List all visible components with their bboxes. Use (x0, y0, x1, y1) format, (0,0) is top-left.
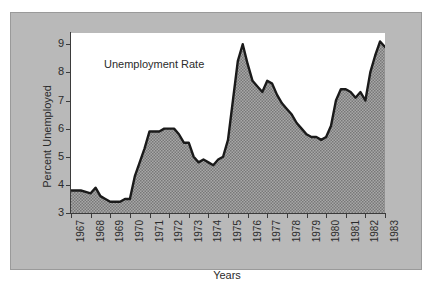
y-tick-label: 3 (48, 207, 64, 217)
x-tick-mark (307, 214, 308, 218)
y-tick-mark (66, 185, 71, 186)
series-annotation-label: Unemployment Rate (104, 58, 204, 70)
x-tick-label: 1979 (311, 220, 322, 242)
x-tick-mark (130, 214, 131, 218)
x-tick-label: 1973 (193, 220, 204, 242)
y-tick-label: 6 (48, 123, 64, 133)
x-tick-mark (365, 214, 366, 218)
figure-container: Percent Unemployed Years 3456789 1967196… (0, 0, 432, 283)
x-tick-label: 1978 (291, 220, 302, 242)
x-tick-mark (228, 214, 229, 218)
x-tick-mark (189, 214, 190, 218)
y-axis-line (70, 32, 71, 214)
x-tick-mark (248, 214, 249, 218)
x-tick-label: 1975 (232, 220, 243, 242)
x-tick-label: 1981 (350, 220, 361, 242)
x-tick-label: 1976 (252, 220, 263, 242)
x-tick-label: 1968 (95, 220, 106, 242)
x-tick-mark (287, 214, 288, 218)
y-tick-mark (66, 101, 71, 102)
x-tick-mark (346, 214, 347, 218)
x-axis-title: Years (11, 269, 432, 281)
x-tick-label: 1982 (369, 220, 380, 242)
x-tick-mark (71, 214, 72, 218)
x-tick-label: 1967 (75, 220, 86, 242)
x-tick-mark (110, 214, 111, 218)
y-tick-label: 8 (48, 66, 64, 76)
x-tick-mark (385, 214, 386, 218)
x-tick-label: 1972 (173, 220, 184, 242)
x-tick-label: 1969 (114, 220, 125, 242)
y-tick-mark (66, 157, 71, 158)
x-tick-label: 1977 (271, 220, 282, 242)
x-tick-mark (326, 214, 327, 218)
x-tick-mark (208, 214, 209, 218)
y-tick-mark (66, 44, 71, 45)
x-tick-mark (267, 214, 268, 218)
x-tick-mark (169, 214, 170, 218)
y-tick-label: 5 (48, 151, 64, 161)
x-tick-label: 1980 (330, 220, 341, 242)
x-tick-mark (91, 214, 92, 218)
y-tick-label: 7 (48, 95, 64, 105)
x-tick-mark (150, 214, 151, 218)
y-tick-label: 4 (48, 179, 64, 189)
x-tick-label: 1983 (389, 220, 400, 242)
x-tick-label: 1970 (134, 220, 145, 242)
y-tick-mark (66, 129, 71, 130)
y-tick-mark (66, 72, 71, 73)
x-tick-label: 1971 (154, 220, 165, 242)
x-tick-label: 1974 (212, 220, 223, 242)
y-tick-label: 9 (48, 38, 64, 48)
